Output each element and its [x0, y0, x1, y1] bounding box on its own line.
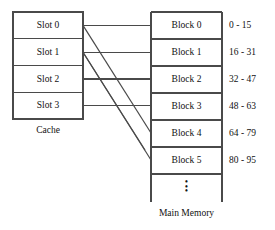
memory-range-label: 16 - 31 — [229, 48, 256, 58]
cache-slot-label: Slot 2 — [13, 75, 83, 85]
memory-ellipsis-icon: • • • — [151, 180, 222, 194]
memory-block-label: Block 0 — [151, 21, 222, 31]
memory-range-label: 32 - 47 — [229, 75, 256, 85]
ellipsis-dot: • — [151, 189, 222, 194]
main-memory-caption: Main Memory — [141, 209, 232, 219]
cache-mapping-diagram: Slot 0 Slot 1 Slot 2 Slot 3 Cache Block … — [0, 0, 275, 230]
memory-range-label: 80 - 95 — [229, 156, 256, 166]
memory-range-label: 64 - 79 — [229, 129, 256, 139]
diagram-lines — [0, 0, 275, 230]
memory-block-label: Block 5 — [151, 156, 222, 166]
memory-block-label: Block 1 — [151, 48, 222, 58]
memory-range-label: 0 - 15 — [229, 21, 251, 31]
memory-block-label: Block 3 — [151, 102, 222, 112]
cache-caption: Cache — [13, 126, 83, 136]
cache-slot-label: Slot 1 — [13, 48, 83, 58]
cache-slot-label: Slot 3 — [13, 101, 83, 111]
memory-block-label: Block 2 — [151, 75, 222, 85]
memory-block-label: Block 4 — [151, 129, 222, 139]
connector-slot1-extra — [83, 52, 145, 150]
memory-range-label: 48 - 63 — [229, 102, 256, 112]
cache-slot-label: Slot 0 — [13, 21, 83, 31]
